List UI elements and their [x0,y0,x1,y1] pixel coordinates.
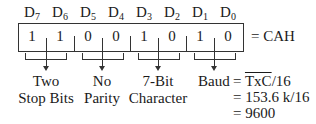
result-hex: = CAH [251,28,295,45]
bracket-baud [194,53,236,60]
bit-value-d7: 1 [18,27,46,45]
bit-value-d3: 1 [130,27,158,45]
arrow-down-icon [99,66,105,71]
bit-value-d5: 0 [74,27,102,45]
txc-signal: TxC [245,73,272,89]
bit-header-d7: D7 [18,3,46,21]
bit-header-d1: D1 [186,3,214,21]
baud-formula-line2: = 153.6 k/16 [233,89,309,106]
arrow-stem [102,51,103,67]
baud-formula-line1: = TxC/16 [233,73,291,90]
bit-header-d0: D0 [214,3,242,21]
field-label-baud: Baud [198,73,230,90]
bit-value-d1: 1 [186,27,214,45]
bracket-character [138,53,180,60]
field-label-character: 7-Bit Character [122,73,194,107]
bracket-parity [82,53,124,60]
arrow-stem [46,51,47,67]
arrow-stem [158,51,159,67]
arrow-down-icon [43,66,49,71]
bit-value-d6: 1 [46,27,74,45]
arrow-down-icon [211,66,217,71]
bit-header-d5: D5 [74,3,102,21]
bit-header-d2: D2 [158,3,186,21]
arrow-down-icon [155,66,161,71]
bit-header-d3: D3 [130,3,158,21]
baud-formula-line3: = 9600 [233,105,275,122]
bit-header-d6: D6 [46,3,74,21]
bit-value-d2: 0 [158,27,186,45]
bit-header-d4: D4 [102,3,130,21]
bit-value-d0: 0 [214,27,242,45]
bit-value-d4: 0 [102,27,130,45]
arrow-stem [214,51,215,67]
